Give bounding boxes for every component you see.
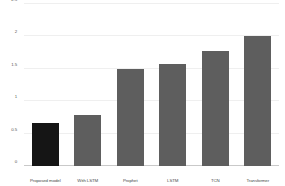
bar-lstm bbox=[159, 64, 186, 166]
bar-proposed-model bbox=[32, 123, 59, 166]
bar-chart: 2.5 2 1.5 1 0.5 0 Proposed model With LS… bbox=[0, 0, 285, 186]
y-tick-label: 0 bbox=[0, 159, 17, 164]
y-tick-label: 0.5 bbox=[0, 126, 17, 131]
bar-slot bbox=[194, 4, 237, 166]
x-tick-label-proposed-model: Proposed model bbox=[30, 178, 61, 183]
x-label-slot: LSTM bbox=[152, 168, 195, 186]
bar-prophet bbox=[117, 69, 144, 166]
x-tick-label-with-lstm: With LSTM bbox=[77, 178, 98, 183]
bar-series bbox=[24, 4, 279, 166]
y-tick-label: 1.5 bbox=[0, 61, 17, 66]
x-label-slot: TCN bbox=[194, 168, 237, 186]
x-label-slot: Transformer bbox=[237, 168, 280, 186]
bar-slot bbox=[152, 4, 195, 166]
x-tick-label-transformer: Transformer bbox=[246, 178, 269, 183]
bar-slot bbox=[109, 4, 152, 166]
bar-tcn bbox=[202, 51, 229, 166]
y-tick-label: 2.5 bbox=[0, 0, 17, 2]
x-tick-label-tcn: TCN bbox=[211, 178, 220, 183]
y-tick-label: 1 bbox=[0, 94, 17, 99]
y-tick-label: 2 bbox=[0, 29, 17, 34]
x-label-slot: Prophet bbox=[109, 168, 152, 186]
bar-slot bbox=[67, 4, 110, 166]
bar-slot bbox=[237, 4, 280, 166]
x-label-slot: Proposed model bbox=[24, 168, 67, 186]
x-label-slot: With LSTM bbox=[67, 168, 110, 186]
bar-transformer bbox=[244, 36, 271, 166]
bar-with-lstm bbox=[74, 115, 101, 166]
x-tick-label-lstm: LSTM bbox=[167, 178, 178, 183]
x-axis-labels: Proposed model With LSTM Prophet LSTM TC… bbox=[24, 168, 279, 186]
x-tick-label-prophet: Prophet bbox=[123, 178, 138, 183]
bar-slot bbox=[24, 4, 67, 166]
